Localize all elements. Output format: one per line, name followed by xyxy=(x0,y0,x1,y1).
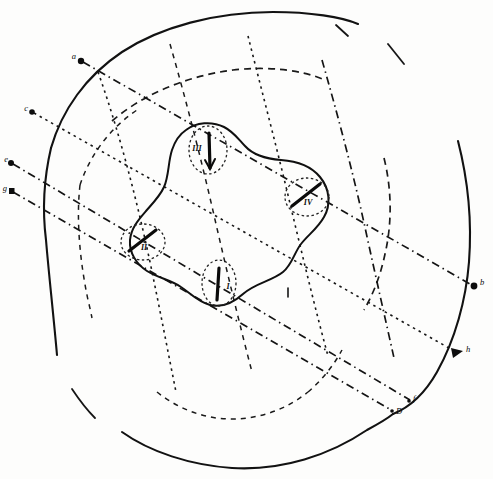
dashed-arc-bottom xyxy=(157,392,308,419)
outer-contour-bottom xyxy=(122,414,393,468)
grid-rib-2 xyxy=(170,44,252,372)
figure-canvas: III IV II I a c e g b h f D xyxy=(0,0,493,479)
marker-d-label: D xyxy=(395,406,403,416)
marker-h-label: h xyxy=(466,344,470,354)
outer-contour-group xyxy=(44,12,470,468)
marker-e-label: e xyxy=(4,154,8,164)
grid-line-c-to-h xyxy=(34,113,456,352)
marker-d-dot[interactable] xyxy=(390,409,394,413)
marker-g-label: g xyxy=(3,183,7,193)
lobe-iii-label: III xyxy=(191,144,202,153)
lobe-i[interactable]: I xyxy=(202,260,236,306)
marker-g-dot[interactable] xyxy=(9,188,15,194)
dashed-arc-bottom-right xyxy=(308,350,342,392)
lobe-iv-label: IV xyxy=(303,198,313,207)
lobe-iii[interactable]: III xyxy=(189,126,227,174)
edge-markers-group: a c e g b h f D xyxy=(3,51,485,416)
outer-contour-gap-left xyxy=(72,389,95,418)
outer-contour-top-right xyxy=(273,12,358,24)
dashed-arc-left-lower xyxy=(78,185,92,318)
marker-a-dot[interactable] xyxy=(78,58,84,64)
dashed-arc-right-upper xyxy=(364,158,390,310)
dashed-arc-outer-top xyxy=(112,68,325,121)
lobe-iv-ring xyxy=(285,178,329,216)
lobe-iv[interactable]: IV xyxy=(285,178,329,216)
grid-line-e-to-f xyxy=(13,164,410,400)
grid-rib-4 xyxy=(322,60,394,358)
diagram-svg: III IV II I a c e g b h f D xyxy=(0,0,493,479)
marker-c-dot[interactable] xyxy=(29,109,35,115)
stroke-top-right-short xyxy=(388,44,404,64)
marker-f-dot[interactable] xyxy=(407,399,411,403)
lobe-i-label: I xyxy=(225,282,230,291)
lobe-i-bar xyxy=(217,268,219,300)
marker-c-label: c xyxy=(24,103,28,113)
concentric-arcs-group xyxy=(78,68,390,419)
lobe-iii-arrow-shaft xyxy=(209,133,210,168)
grid-rib-1 xyxy=(98,72,176,392)
marker-h-triangle[interactable] xyxy=(451,348,463,358)
stroke-top-right-tip xyxy=(336,25,348,36)
grid-lines-ne-sw xyxy=(13,62,470,411)
lobe-ii-label: II xyxy=(140,243,148,252)
marker-e-dot[interactable] xyxy=(8,160,14,166)
marker-a-label: a xyxy=(72,51,76,61)
outer-contour-top-left xyxy=(51,12,273,148)
marker-b-dot[interactable] xyxy=(471,283,478,290)
isolated-strokes-group xyxy=(336,25,404,64)
outer-contour-left xyxy=(44,148,57,355)
marker-b-label: b xyxy=(480,277,484,287)
